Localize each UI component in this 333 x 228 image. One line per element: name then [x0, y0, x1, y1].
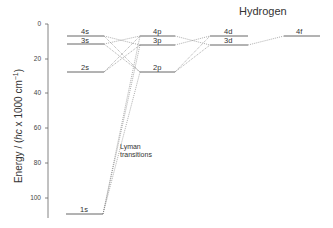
- label-2s: 2s: [81, 63, 89, 72]
- tick-40: 40: [21, 89, 41, 96]
- label-3p: 3p: [153, 36, 161, 45]
- ylabel-sup: −1: [12, 72, 19, 80]
- energy-levels: [66, 36, 320, 214]
- label-4f: 4f: [296, 27, 302, 36]
- tick-20: 20: [21, 55, 41, 62]
- energy-level-diagram: [0, 0, 333, 228]
- label-2p: 2p: [153, 63, 161, 72]
- tick-80: 80: [21, 159, 41, 166]
- ylabel-close: ): [13, 69, 24, 72]
- transitions: [103, 36, 284, 214]
- ylabel-suffix: x 1000 cm: [13, 80, 24, 129]
- tick-0: 0: [21, 20, 41, 27]
- diagram-title: Hydrogen: [239, 5, 287, 17]
- label-3s: 3s: [81, 36, 89, 45]
- tick-100: 100: [21, 194, 41, 201]
- annotation-line1: Lyman: [120, 143, 152, 151]
- label-4d: 4d: [224, 27, 232, 36]
- tick-60: 60: [21, 124, 41, 131]
- label-1s: 1s: [80, 205, 88, 214]
- lyman-annotation: Lyman transitions: [120, 143, 152, 159]
- label-4s: 4s: [81, 27, 89, 36]
- label-4p: 4p: [153, 27, 161, 36]
- label-3d: 3d: [224, 36, 232, 45]
- annotation-line2: transitions: [120, 151, 152, 159]
- y-axis: [45, 24, 48, 218]
